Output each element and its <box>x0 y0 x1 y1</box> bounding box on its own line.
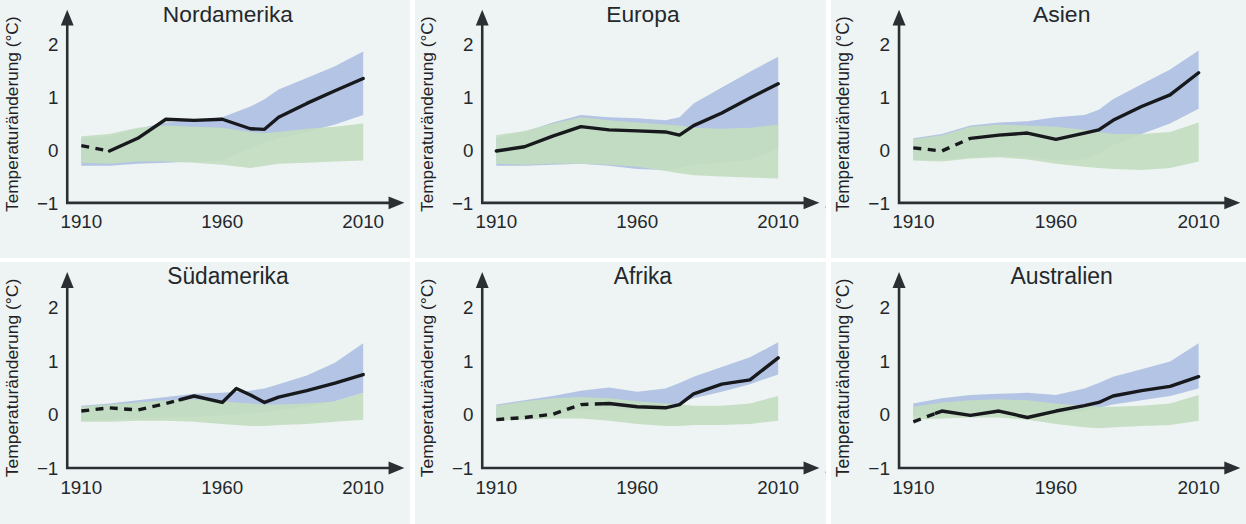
panel-europa: 210−1191019602010JahrTemperaturänderung … <box>415 0 830 262</box>
panel-title: Europa <box>607 1 681 27</box>
x-tick-label: 1910 <box>60 211 102 232</box>
x-tick-label: 1960 <box>617 477 659 498</box>
panel-nordamerika: 210−1191019602010JahrTemperaturänderung … <box>0 0 415 262</box>
x-tick-label: 1960 <box>617 211 659 232</box>
y-axis-title: Temperaturänderung (°C) <box>833 279 853 478</box>
chart-europa: 210−1191019602010JahrTemperaturänderung … <box>415 0 825 258</box>
x-tick-label: 2010 <box>758 211 800 232</box>
chart-asien: 210−1191019602010JahrTemperaturänderung … <box>831 0 1246 258</box>
chart-australien: 210−1191019602010JahrTemperaturänderung … <box>831 262 1246 524</box>
x-tick-label: 1960 <box>201 211 243 232</box>
y-tick-label: 1 <box>48 350 58 371</box>
y-axis-arrow <box>476 10 489 26</box>
x-axis-arrow <box>804 462 820 475</box>
y-tick-label: 2 <box>879 34 890 55</box>
y-tick-label: 0 <box>48 140 58 161</box>
x-axis-arrow <box>1224 196 1240 209</box>
x-tick-label: 2010 <box>342 211 384 232</box>
y-tick-label: 0 <box>463 140 473 161</box>
y-axis-arrow <box>61 272 74 288</box>
y-tick-label: 1 <box>879 351 890 372</box>
y-axis-arrow <box>476 272 489 288</box>
climate-panels-figure: 210−1191019602010JahrTemperaturänderung … <box>0 0 1246 524</box>
panel-title: Asien <box>1033 1 1091 27</box>
x-tick-label: 2010 <box>1177 477 1219 498</box>
x-tick-label: 2010 <box>758 477 800 498</box>
y-tick-label: 1 <box>463 350 473 371</box>
y-axis-title: Temperaturänderung (°C) <box>417 17 437 212</box>
x-tick-label: 1960 <box>201 477 243 498</box>
x-tick-label: 1910 <box>892 212 934 233</box>
x-tick-label: 1910 <box>476 211 518 232</box>
y-tick-label: −1 <box>868 193 890 214</box>
x-tick-label: 1910 <box>60 477 102 498</box>
x-tick-label: 1960 <box>1034 212 1076 233</box>
panel-australien: 210−1191019602010JahrTemperaturänderung … <box>831 262 1246 524</box>
y-axis-arrow <box>892 10 905 26</box>
x-tick-label: 1910 <box>476 477 518 498</box>
panel-title: Afrika <box>614 263 672 289</box>
y-tick-label: 1 <box>879 87 890 108</box>
x-tick-label: 2010 <box>1177 212 1219 233</box>
y-tick-label: 0 <box>48 404 58 425</box>
y-tick-label: 1 <box>463 87 473 108</box>
panel-title: Nordamerika <box>163 1 294 27</box>
x-axis-arrow <box>389 196 405 209</box>
y-tick-label: 2 <box>48 297 58 318</box>
y-axis-title: Temperaturänderung (°C) <box>417 279 437 478</box>
y-tick-label: 1 <box>48 87 58 108</box>
x-axis-arrow <box>389 462 405 475</box>
chart-afrika: 210−1191019602010JahrTemperaturänderung … <box>415 262 825 524</box>
y-tick-label: 0 <box>879 404 890 425</box>
y-tick-label: −1 <box>452 458 473 479</box>
x-axis-arrow <box>804 196 820 209</box>
y-tick-label: 2 <box>463 297 473 318</box>
y-tick-label: 0 <box>463 404 473 425</box>
x-tick-label: 1910 <box>892 477 934 498</box>
x-tick-label: 2010 <box>342 477 384 498</box>
y-tick-label: −1 <box>37 458 58 479</box>
chart-südamerika: 210−1191019602010JahrTemperaturänderung … <box>0 262 410 524</box>
y-axis-title: Temperaturänderung (°C) <box>2 279 22 478</box>
y-tick-label: −1 <box>452 193 473 214</box>
y-tick-label: 0 <box>879 140 890 161</box>
x-tick-label: 1960 <box>1034 477 1076 498</box>
y-tick-label: −1 <box>37 193 58 214</box>
y-tick-label: 2 <box>879 297 890 318</box>
y-axis-title: Temperaturänderung (°C) <box>833 17 853 212</box>
y-tick-label: 2 <box>463 34 473 55</box>
panel-title: Australien <box>1010 263 1112 289</box>
x-axis-arrow <box>1224 462 1240 475</box>
y-axis-arrow <box>61 10 74 26</box>
chart-nordamerika: 210−1191019602010JahrTemperaturänderung … <box>0 0 410 258</box>
panel-asien: 210−1191019602010JahrTemperaturänderung … <box>831 0 1246 262</box>
y-tick-label: 2 <box>48 34 58 55</box>
panel-südamerika: 210−1191019602010JahrTemperaturänderung … <box>0 262 415 524</box>
y-axis-arrow <box>892 272 905 288</box>
y-axis-title: Temperaturänderung (°C) <box>2 17 22 212</box>
panel-afrika: 210−1191019602010JahrTemperaturänderung … <box>415 262 830 524</box>
y-tick-label: −1 <box>868 458 890 479</box>
panel-title: Südamerika <box>167 263 289 289</box>
